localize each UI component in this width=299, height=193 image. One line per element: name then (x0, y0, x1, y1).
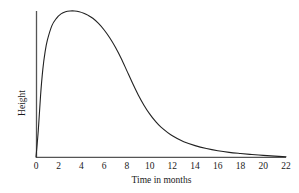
x-tick-label: 4 (70, 161, 92, 172)
x-tick-label: 6 (93, 161, 115, 172)
x-tick-label: 2 (48, 161, 70, 172)
chart-figure: Height Time in months 024681012141618202… (0, 0, 299, 193)
x-tick-label: 10 (139, 161, 161, 172)
x-axis-label: Time in months (0, 175, 299, 185)
x-tick-label: 14 (184, 161, 206, 172)
x-axis-label-text: Time in months (108, 175, 192, 185)
x-tick-label: 18 (230, 161, 252, 172)
y-axis-label: Height (17, 85, 27, 121)
x-tick-label: 16 (207, 161, 229, 172)
x-tick-label: 8 (116, 161, 138, 172)
x-tick-label: 12 (161, 161, 183, 172)
x-tick-label: 22 (275, 161, 297, 172)
height-curve (36, 11, 286, 157)
x-tick-label: 20 (252, 161, 274, 172)
x-tick-label: 0 (25, 161, 47, 172)
